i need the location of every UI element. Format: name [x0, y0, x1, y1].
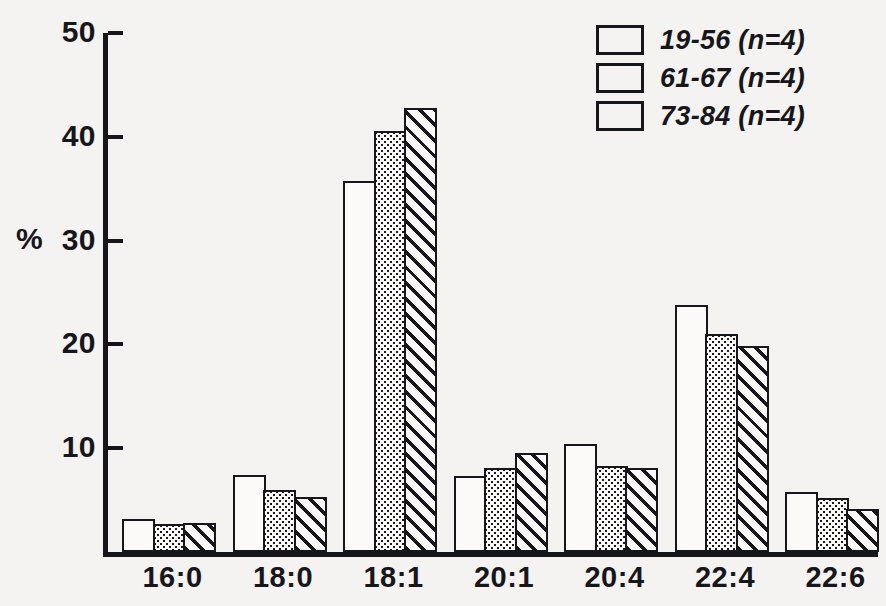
bar-group-18-1 — [343, 33, 444, 552]
y-tick-label-text: 40 — [36, 121, 96, 151]
bar-22-6-61-67 — [816, 498, 849, 552]
y-tick-label-40: 40 — [28, 121, 96, 151]
bar-22-6-73-84 — [846, 509, 879, 552]
bar-18-1-61-67 — [374, 131, 407, 552]
bar-22-6-19-56 — [785, 492, 818, 552]
chart-legend: 19-56 (n=4)61-67 (n=4)73-84 (n=4) — [596, 22, 805, 136]
fatty-acid-composition-bar-chart: % 1020304050 16:018:018:120:120:422:422:… — [0, 0, 886, 606]
legend-swatch-open — [596, 25, 644, 55]
bar-16-0-73-84 — [183, 523, 216, 552]
bar-20-4-19-56 — [564, 444, 597, 552]
bar-group-20-1 — [454, 33, 555, 552]
bar-16-0-61-67 — [153, 524, 186, 552]
y-tick-label-50: 50 — [28, 17, 96, 47]
y-tick-label-30: 30 — [28, 225, 96, 255]
y-tick-label-text: 50 — [36, 17, 96, 47]
legend-label-text: 73-84 (n=4) — [660, 101, 805, 132]
bar-22-4-73-84 — [736, 346, 769, 552]
legend-item-1: 19-56 (n=4) — [596, 22, 805, 58]
bar-18-0-73-84 — [294, 497, 327, 552]
bar-group-18-0 — [233, 33, 334, 552]
x-tick-label-22-6: 22:6 — [765, 563, 886, 592]
bar-16-0-19-56 — [122, 519, 155, 552]
bar-18-1-73-84 — [404, 108, 437, 552]
bar-group-16-0 — [122, 33, 223, 552]
bar-18-1-19-56 — [343, 181, 376, 552]
legend-swatch-dotted — [596, 63, 644, 93]
bar-20-1-61-67 — [484, 468, 517, 552]
legend-swatch-hatched — [596, 101, 644, 131]
y-tick-label-20: 20 — [28, 328, 96, 358]
x-axis-line — [103, 552, 878, 557]
bar-18-0-19-56 — [233, 475, 266, 552]
y-tick-label-text: 10 — [36, 432, 96, 462]
legend-item-2: 61-67 (n=4) — [596, 60, 805, 96]
y-tick-label-text: 20 — [36, 328, 96, 358]
bar-18-0-61-67 — [263, 490, 296, 552]
legend-item-3: 73-84 (n=4) — [596, 98, 805, 134]
bar-20-4-73-84 — [625, 468, 658, 552]
y-tick-label-text: 30 — [36, 225, 96, 255]
bar-22-4-19-56 — [675, 305, 708, 552]
bar-22-4-61-67 — [705, 334, 738, 552]
y-tick-label-10: 10 — [28, 432, 96, 462]
bar-20-1-73-84 — [515, 453, 548, 552]
legend-label-text: 61-67 (n=4) — [660, 63, 805, 94]
bar-20-4-61-67 — [595, 466, 628, 552]
legend-label-text: 19-56 (n=4) — [660, 25, 805, 56]
bar-20-1-19-56 — [454, 476, 487, 552]
